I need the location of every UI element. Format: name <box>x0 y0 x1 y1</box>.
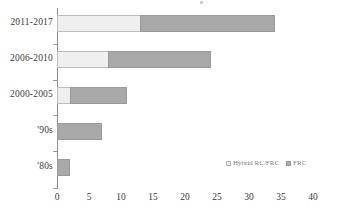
bar-row <box>57 15 275 32</box>
frc-swatch-icon <box>286 161 291 166</box>
y-axis-tick <box>53 188 57 189</box>
x-tick-label-25: 25 <box>212 192 222 202</box>
y-axis-label-2000-2005: 2000-2005 <box>10 89 53 99</box>
bar-segment-frc <box>57 123 102 140</box>
chart-legend: Hybrid RC/FRC FRC <box>226 159 306 167</box>
x-tick-label-5: 5 <box>87 192 92 202</box>
hybrid-swatch-icon <box>226 161 231 166</box>
x-tick-label-30: 30 <box>244 192 254 202</box>
bar-segment-hybrid <box>57 15 140 32</box>
bar-segment-frc <box>70 87 128 104</box>
bar-row <box>57 87 127 104</box>
x-axis-line <box>57 189 314 190</box>
y-axis-label-2006-2010: 2006-2010 <box>10 53 53 63</box>
stacked-bar-chart: 2011-2017 2006-2010 2000-2005 '90s '80s … <box>0 0 345 208</box>
x-tick-label-10: 10 <box>116 192 126 202</box>
y-axis-label-90s: '90s <box>37 125 53 135</box>
y-axis-label-80s: '80s <box>37 161 53 171</box>
x-tick-label-0: 0 <box>55 192 60 202</box>
legend-item-frc[interactable]: FRC <box>286 159 306 167</box>
y-axis-label-2011-2017: 2011-2017 <box>10 17 53 27</box>
legend-label-frc: FRC <box>293 159 306 167</box>
bar-row <box>57 159 70 176</box>
legend-label-hybrid: Hybrid RC/FRC <box>233 159 279 167</box>
bar-row <box>57 123 102 140</box>
bar-segment-hybrid <box>57 51 108 68</box>
bar-segment-frc <box>108 51 210 68</box>
bar-segment-frc <box>57 159 70 176</box>
top-tick-mark <box>200 1 203 4</box>
x-tick-label-20: 20 <box>180 192 190 202</box>
x-tick-label-40: 40 <box>308 192 318 202</box>
bar-segment-hybrid <box>57 87 70 104</box>
bar-segment-frc <box>140 15 274 32</box>
bar-row <box>57 51 211 68</box>
x-tick-label-35: 35 <box>276 192 286 202</box>
x-tick-label-15: 15 <box>148 192 158 202</box>
legend-item-hybrid[interactable]: Hybrid RC/FRC <box>226 159 279 167</box>
